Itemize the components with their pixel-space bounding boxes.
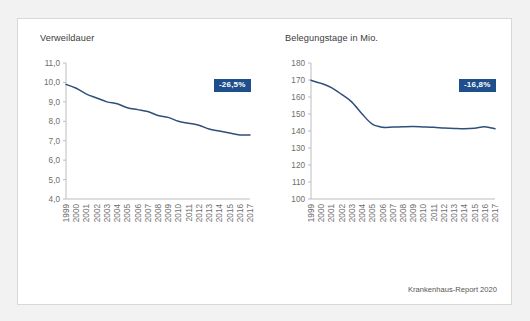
x-tick-label-verweildauer: 2017 [246, 204, 254, 223]
x-tick-label-verweildauer: 2005 [123, 204, 132, 223]
x-tick-label-belegungstage: 2016 [481, 204, 490, 223]
chart-title-right: Belegungstage in Mio. [285, 33, 378, 43]
x-tick-label-verweildauer: 2011 [185, 204, 194, 222]
y-tick-label-belegungstage: 120 [291, 161, 305, 170]
x-tick-label-verweildauer: 2007 [144, 204, 153, 223]
y-tick-label-belegungstage: 160 [291, 93, 305, 102]
x-tick-label-belegungstage: 2008 [399, 204, 408, 223]
x-tick-label-verweildauer: 2013 [205, 204, 214, 223]
y-tick-label-verweildauer: 9,0 [49, 98, 61, 107]
y-tick-label-verweildauer: 11,0 [45, 59, 61, 68]
figure-card: Verweildauer 11,010,09,08,07,06,05,04,01… [17, 18, 512, 305]
x-tick-label-verweildauer: 2012 [195, 204, 204, 223]
chart-panel-verweildauer: Verweildauer 11,010,09,08,07,06,05,04,01… [18, 19, 268, 304]
x-tick-label-verweildauer: 2006 [134, 204, 143, 223]
chart-panel-belegungstage: Belegungstage in Mio. 180170160150140130… [263, 19, 513, 304]
source-note: Krankenhaus-Report 2020 [408, 285, 497, 294]
chart-title-left: Verweildauer [40, 33, 94, 43]
x-tick-label-belegungstage: 1999 [307, 204, 316, 223]
y-tick-label-belegungstage: 100 [291, 195, 305, 204]
x-tick-label-belegungstage: 2013 [450, 204, 459, 223]
x-tick-label-verweildauer: 2016 [236, 204, 245, 223]
x-tick-label-belegungstage: 2017 [491, 204, 499, 223]
x-tick-label-belegungstage: 2000 [317, 204, 326, 223]
y-tick-label-belegungstage: 180 [291, 59, 305, 68]
y-tick-label-belegungstage: 140 [291, 127, 305, 136]
change-badge-right: -16,8% [459, 79, 496, 92]
y-tick-label-belegungstage: 130 [291, 144, 305, 153]
x-tick-label-belegungstage: 2002 [338, 204, 347, 223]
change-badge-left: -26,5% [214, 79, 251, 92]
y-tick-label-verweildauer: 8,0 [49, 117, 61, 126]
x-tick-label-verweildauer: 2001 [82, 204, 91, 223]
y-tick-label-verweildauer: 10,0 [44, 78, 60, 87]
y-tick-label-belegungstage: 150 [291, 110, 305, 119]
x-tick-label-belegungstage: 2005 [368, 204, 377, 223]
x-tick-label-verweildauer: 2004 [113, 204, 122, 223]
x-tick-label-verweildauer: 2000 [72, 204, 81, 223]
y-tick-label-belegungstage: 170 [291, 76, 305, 85]
y-tick-label-verweildauer: 7,0 [49, 137, 61, 146]
y-tick-label-belegungstage: 110 [292, 178, 305, 187]
x-tick-label-belegungstage: 2004 [358, 204, 367, 223]
x-tick-label-verweildauer: 2002 [93, 204, 102, 223]
x-tick-label-verweildauer: 2010 [174, 204, 183, 223]
x-tick-label-verweildauer: 2014 [215, 204, 224, 223]
y-tick-label-verweildauer: 6,0 [49, 156, 61, 165]
x-tick-label-verweildauer: 2015 [226, 204, 235, 223]
x-tick-label-belegungstage: 2003 [348, 204, 357, 223]
x-tick-label-verweildauer: 2009 [164, 204, 173, 223]
x-tick-label-belegungstage: 2014 [460, 204, 469, 223]
x-tick-label-belegungstage: 2015 [471, 204, 480, 223]
x-tick-label-belegungstage: 2007 [389, 204, 398, 223]
x-tick-label-belegungstage: 2012 [440, 204, 449, 223]
x-tick-label-belegungstage: 2009 [409, 204, 418, 223]
y-tick-label-verweildauer: 4,0 [49, 195, 61, 204]
x-tick-label-verweildauer: 1999 [62, 204, 71, 223]
x-tick-label-verweildauer: 2008 [154, 204, 163, 223]
x-tick-label-belegungstage: 2001 [327, 204, 336, 223]
x-tick-label-belegungstage: 2011 [430, 204, 439, 222]
y-tick-label-verweildauer: 5,0 [49, 176, 61, 185]
x-tick-label-belegungstage: 2006 [379, 204, 388, 223]
x-tick-label-verweildauer: 2003 [103, 204, 112, 223]
x-tick-label-belegungstage: 2010 [419, 204, 428, 223]
